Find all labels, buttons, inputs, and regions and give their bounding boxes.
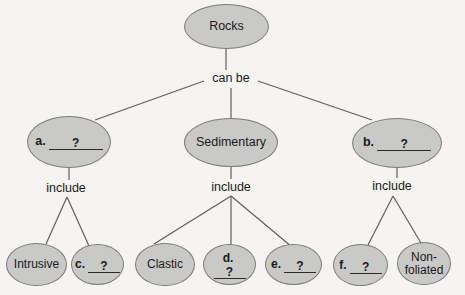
blank-c-question-mark: ? (100, 259, 107, 273)
blank-e-line: ? (284, 260, 316, 273)
blank-f-content: f.? (336, 259, 384, 272)
blank-b-question-mark: ? (400, 137, 407, 151)
blank-a-question-mark: ? (72, 136, 79, 150)
blank-a-prefix: a. (35, 134, 45, 148)
node-rocks: Rocks (184, 4, 269, 49)
blank-b-content: b.? (360, 136, 434, 149)
edge-label-can-be: can be (196, 71, 266, 85)
node-clastic: Clastic (135, 243, 195, 286)
node-non-foliated-label: Non-foliated (398, 251, 450, 276)
blank-d-line: ? (214, 266, 246, 279)
blank-c-prefix: c. (75, 257, 85, 271)
node-blank-f: f.? (333, 244, 388, 286)
edge-label-include-middle: include (196, 180, 266, 194)
node-rocks-label: Rocks (206, 20, 247, 33)
node-blank-b: b.? (352, 118, 442, 168)
blank-c-content: c.? (72, 258, 123, 271)
blank-b-line: ? (377, 138, 431, 151)
blank-f-line: ? (350, 261, 382, 274)
node-intrusive: Intrusive (6, 243, 67, 286)
node-sedimentary: Sedimentary (184, 118, 278, 167)
node-intrusive-label: Intrusive (11, 258, 62, 271)
node-non-foliated: Non-foliated (397, 242, 451, 285)
blank-c-line: ? (88, 260, 120, 273)
node-blank-a: a.? (27, 116, 111, 168)
node-blank-c: c.? (71, 244, 124, 285)
blank-e-question-mark: ? (296, 259, 303, 273)
blank-e-content: e.? (268, 258, 319, 271)
node-sedimentary-label: Sedimentary (193, 136, 269, 149)
blank-a-line: ? (49, 137, 103, 150)
blank-d-content: d.? (204, 252, 255, 278)
blank-f-prefix: f. (339, 258, 346, 272)
blank-b-prefix: b. (363, 135, 374, 149)
node-blank-e: e.? (265, 244, 322, 285)
node-clastic-label: Clastic (144, 258, 186, 271)
edge-label-include-right: include (357, 179, 427, 193)
blank-d-question-mark: ? (226, 265, 233, 279)
blank-f-question-mark: ? (362, 260, 369, 274)
node-blank-d: d.? (203, 244, 256, 285)
blank-e-prefix: e. (271, 257, 281, 271)
edge-label-include-left: include (31, 181, 101, 195)
blank-a-content: a.? (32, 135, 105, 148)
rocks-concept-map: Rocks can be include include include a.?… (0, 0, 465, 295)
blank-d-prefix: d. (223, 251, 234, 265)
